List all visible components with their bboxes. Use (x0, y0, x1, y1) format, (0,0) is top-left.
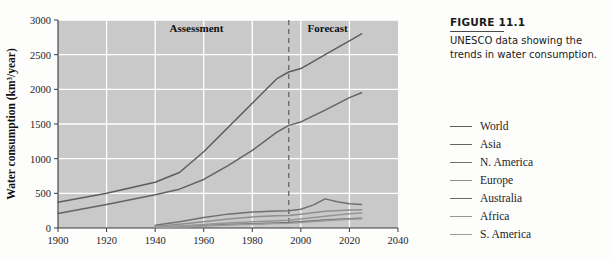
legend-line-swatch-icon (450, 126, 472, 127)
x-axis-tick-label: 1920 (96, 235, 117, 246)
x-axis-tick-label: 2000 (290, 235, 311, 246)
y-axis-title: Water consumption (km³/year) (5, 48, 18, 200)
legend-item-world[interactable]: World (450, 117, 610, 135)
legend-item-s-america[interactable]: S. America (450, 225, 610, 243)
legend-item-asia[interactable]: Asia (450, 135, 610, 153)
x-axis-tick-label: 1900 (48, 235, 69, 246)
legend-line-swatch-icon (450, 198, 472, 199)
legend-item-label: S. America (480, 228, 531, 240)
chart-legend: WorldAsiaN. AmericaEuropeAustraliaAfrica… (450, 117, 610, 243)
annotation-forecast: Forecast (308, 22, 348, 34)
figure-caption: UNESCO data showing the trends in water … (450, 34, 605, 62)
x-axis-tick-label: 1980 (242, 235, 263, 246)
x-axis-tick-label: 1940 (145, 235, 166, 246)
legend-line-swatch-icon (450, 216, 472, 217)
annotation-assessment: Assessment (170, 22, 224, 34)
figure-side-panel: FIGURE 11.1 UNESCO data showing the tren… (412, 0, 611, 258)
figure-rule-divider (450, 31, 504, 32)
y-axis-tick-label: 500 (35, 188, 51, 199)
legend-item-n-america[interactable]: N. America (450, 153, 610, 171)
figure-number: FIGURE 11.1 (450, 16, 525, 28)
chart-area: 0500100015002000250030001900192019401960… (0, 0, 412, 258)
legend-line-swatch-icon (450, 180, 472, 181)
legend-line-swatch-icon (450, 144, 472, 145)
legend-item-label: Australia (480, 192, 522, 204)
legend-item-label: N. America (480, 156, 533, 168)
y-axis-tick-label: 3000 (30, 15, 51, 26)
water-consumption-line-chart: 0500100015002000250030001900192019401960… (0, 0, 412, 258)
legend-item-label: Africa (480, 210, 509, 222)
legend-item-label: World (480, 120, 508, 132)
legend-item-label: Europe (480, 174, 513, 186)
y-axis-tick-label: 2500 (30, 50, 51, 61)
figure-container: 0500100015002000250030001900192019401960… (0, 0, 611, 258)
y-axis-tick-label: 1500 (30, 119, 51, 130)
y-axis-tick-label: 1000 (30, 154, 51, 165)
legend-item-africa[interactable]: Africa (450, 207, 610, 225)
legend-item-europe[interactable]: Europe (450, 171, 610, 189)
y-axis-tick-label: 0 (46, 223, 51, 234)
legend-line-swatch-icon (450, 234, 472, 235)
legend-item-australia[interactable]: Australia (450, 189, 610, 207)
x-axis-tick-label: 2040 (388, 235, 409, 246)
y-axis-tick-label: 2000 (30, 84, 51, 95)
legend-line-swatch-icon (450, 162, 472, 163)
x-axis-tick-label: 2020 (339, 235, 360, 246)
x-axis-tick-label: 1960 (193, 235, 214, 246)
legend-item-label: Asia (480, 138, 501, 150)
